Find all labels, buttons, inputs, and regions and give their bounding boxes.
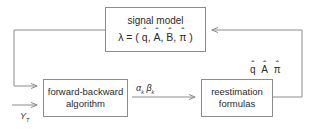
beta-subscript: k: [152, 89, 155, 95]
comma-1: ,: [148, 31, 151, 43]
a-hat-symbol: ˆA: [153, 31, 160, 44]
alpha-beta-edge-label: αk βk: [136, 83, 154, 95]
equals-open-paren: = (: [126, 31, 139, 43]
close-paren: ): [189, 31, 193, 43]
signal-model-formula: λ = ( ˆq, ˆA, ˆB, ˆπ ): [118, 31, 193, 44]
reestimation-label-line-1: reestimation: [211, 86, 263, 98]
q-hat-param-symbol: ˆq: [250, 64, 257, 75]
reestimation-node: reestimation formulas: [201, 79, 273, 117]
pi-hat-symbol: ˆπ: [179, 31, 186, 44]
y-subscript: T: [26, 117, 29, 123]
edge-signal-model-to-forward-backward: [14, 30, 105, 86]
q-hat-symbol: ˆq: [142, 31, 148, 44]
diagram-canvas: signal model λ = ( ˆq, ˆA, ˆB, ˆπ ) forw…: [0, 0, 316, 129]
signal-model-node: signal model λ = ( ˆq, ˆA, ˆB, ˆπ ): [105, 7, 206, 52]
hat-accent-a: ˆ: [155, 26, 158, 36]
a-hat-param-symbol: ˆA: [261, 64, 269, 75]
hat-accent-q-param: ˆ: [251, 59, 256, 69]
b-hat-symbol: ˆB: [166, 31, 173, 44]
hat-accent-b: ˆ: [168, 26, 171, 36]
lambda-symbol: λ: [118, 31, 123, 43]
forward-backward-label-line-1: forward-backward: [48, 86, 124, 98]
pi-hat-param-symbol: ˆπ: [274, 64, 282, 75]
hat-accent-pi: ˆ: [181, 26, 184, 36]
reestimation-label-line-2: formulas: [219, 98, 255, 110]
estimated-params-edge-label: ˆq ˆA ˆπ: [250, 64, 282, 75]
forward-backward-node: forward-backward algorithm: [43, 79, 128, 117]
forward-backward-label-line-2: algorithm: [66, 98, 105, 110]
alpha-subscript: k: [141, 89, 144, 95]
hat-accent-q: ˆ: [143, 26, 146, 36]
comma-3: ,: [173, 31, 176, 43]
comma-2: ,: [160, 31, 163, 43]
hat-accent-a-param: ˆ: [263, 59, 268, 69]
hat-accent-pi-param: ˆ: [276, 59, 281, 69]
observations-edge-label: YT: [20, 111, 29, 123]
